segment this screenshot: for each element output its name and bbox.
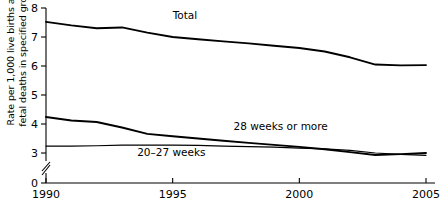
y-tick-label: 3 bbox=[31, 147, 38, 160]
series-line bbox=[46, 22, 426, 66]
chart-canvas: 03456781990199520002005Total28 weeks or … bbox=[0, 0, 441, 215]
y-tick-label: 5 bbox=[31, 89, 38, 102]
y-axis-ticks: 0345678 bbox=[31, 2, 46, 190]
y-tick-label: 8 bbox=[31, 2, 38, 15]
y-tick-label: 6 bbox=[31, 60, 38, 73]
y-tick-label: 7 bbox=[31, 31, 38, 44]
x-tick-label: 2005 bbox=[412, 188, 440, 201]
x-tick-label: 1995 bbox=[159, 188, 187, 201]
x-axis-ticks: 1990199520002005 bbox=[32, 178, 440, 201]
series-lines bbox=[46, 22, 426, 155]
axes bbox=[42, 8, 435, 183]
series-label: 28 weeks or more bbox=[233, 120, 327, 132]
x-tick-label: 2000 bbox=[285, 188, 313, 201]
series-label: Total bbox=[172, 9, 198, 21]
series-label: 20–27 weeks bbox=[137, 146, 205, 158]
y-tick-label: 4 bbox=[31, 118, 38, 131]
x-tick-label: 1990 bbox=[32, 188, 60, 201]
figure-chart: Rate per 1,000 live births and fetal dea… bbox=[0, 0, 441, 215]
